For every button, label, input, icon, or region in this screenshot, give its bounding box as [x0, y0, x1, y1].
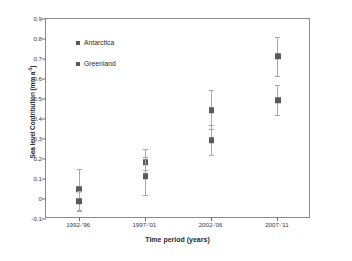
y-axis-tick-mark [42, 119, 46, 120]
y-axis-tick-mark [42, 59, 46, 60]
y-axis-tick-mark [42, 99, 46, 100]
legend-label: Greenland [84, 60, 116, 67]
y-axis-tick-label: 0.4 [22, 115, 42, 122]
legend-item[interactable]: Antarctica [76, 32, 166, 53]
plot-area: AntarcticaGreenland [45, 18, 310, 218]
chart-legend: AntarcticaGreenland [76, 32, 166, 74]
data-marker[interactable] [209, 137, 215, 143]
y-axis-tick-label: 0.5 [22, 95, 42, 102]
y-axis-tick-mark [42, 159, 46, 160]
data-marker[interactable] [209, 107, 215, 113]
y-axis-tick-label: 0.9 [22, 15, 42, 22]
x-axis-title: Time period (years) [45, 236, 310, 243]
legend-item[interactable]: Greenland [76, 53, 166, 74]
y-axis-tick-label: -0.1 [22, 215, 42, 222]
y-axis-tick-label: 0.2 [22, 155, 42, 162]
y-axis-tick-label: 0.3 [22, 135, 42, 142]
error-bar-cap [275, 115, 280, 116]
y-axis-tick-mark [42, 139, 46, 140]
legend-swatch-icon [76, 41, 80, 45]
y-axis-tick-label: 0.8 [22, 35, 42, 42]
y-axis-tick-mark [42, 199, 46, 200]
error-bar-cap [209, 155, 214, 156]
error-bar-cap [275, 76, 280, 77]
chart-figure: Sea level Contribution (mm a-1) 0.90.80.… [0, 0, 352, 261]
error-bar-cap [209, 125, 214, 126]
data-marker[interactable] [76, 199, 82, 205]
data-marker[interactable] [275, 53, 281, 59]
legend-swatch-icon [76, 62, 80, 66]
y-axis-tick-label: 0.7 [22, 55, 42, 62]
error-bar-cap [77, 191, 82, 192]
y-axis-tick-label: 0 [22, 195, 42, 202]
y-axis-tick-mark [42, 19, 46, 20]
error-bar-cap [77, 211, 82, 212]
x-axis-tick-label: 1997-'01 [114, 221, 174, 228]
x-axis-tick-label: 2007-'11 [247, 221, 307, 228]
error-bar-cap [77, 169, 82, 170]
data-marker[interactable] [275, 97, 281, 103]
legend-label: Antarctica [84, 39, 114, 46]
y-axis-tick-mark [42, 219, 46, 220]
error-bar-cap [275, 85, 280, 86]
y-axis-tick-mark [42, 39, 46, 40]
y-axis-tick-mark [42, 79, 46, 80]
error-bar-cap [143, 157, 148, 158]
y-axis-tick-label: 0.6 [22, 75, 42, 82]
y-axis-tick-mark [42, 179, 46, 180]
data-marker[interactable] [143, 173, 149, 179]
error-bar-cap [143, 195, 148, 196]
y-axis-tick-label: 0.1 [22, 175, 42, 182]
x-axis-tick-label: 2002-'06 [181, 221, 241, 228]
x-axis-tick-labels: 1992-'961997-'012002-'062007-'11 [45, 221, 310, 233]
error-bar-cap [209, 90, 214, 91]
y-axis-tick-labels: 0.90.80.70.60.50.40.30.20.10-0.1 [22, 18, 42, 218]
error-bar-cap [143, 149, 148, 150]
x-axis-tick-label: 1992-'96 [48, 221, 108, 228]
error-bar-cap [275, 37, 280, 38]
